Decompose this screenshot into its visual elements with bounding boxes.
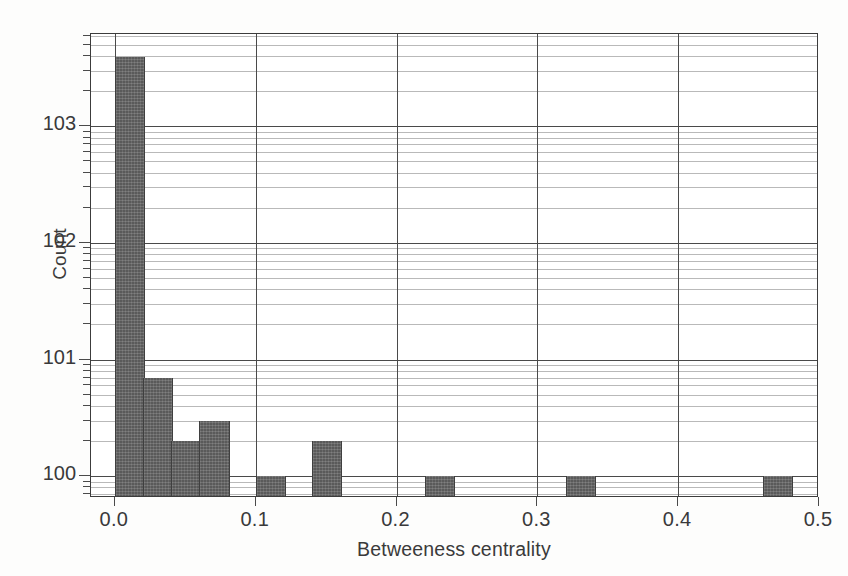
gridline-minor-y: [91, 36, 817, 37]
gridline-minor-y: [91, 187, 817, 188]
gridline-minor-y: [91, 385, 817, 386]
gridline-minor-y: [91, 365, 817, 366]
histogram-bar: [312, 441, 342, 497]
y-tick-minor: [83, 44, 90, 45]
gridline-minor-y: [91, 269, 817, 270]
gridline-minor-y: [91, 138, 817, 139]
y-tick-major: [79, 125, 90, 126]
gridline-minor-y: [91, 378, 817, 379]
y-tick-minor: [83, 131, 90, 132]
y-tick-minor: [83, 253, 90, 254]
y-tick-minor: [83, 90, 90, 91]
x-tick-label: 0.0: [74, 508, 154, 531]
x-tick: [255, 497, 256, 506]
y-tick-exponent: 1: [65, 346, 76, 368]
x-tick-label: 0.2: [356, 508, 436, 531]
gridline-minor-y: [91, 71, 817, 72]
y-tick-minor: [83, 323, 90, 324]
y-tick-minor: [83, 186, 90, 187]
histogram-bar: [199, 421, 229, 497]
gridline-minor-y: [91, 56, 817, 57]
y-tick-minor: [83, 440, 90, 441]
gridline-minor-y: [91, 152, 817, 153]
x-tick: [818, 497, 819, 506]
gridline-minor-y: [91, 406, 817, 407]
y-tick-minor: [83, 394, 90, 395]
gridline-minor-y: [91, 254, 817, 255]
y-tick-minor: [83, 151, 90, 152]
x-tick: [396, 497, 397, 506]
y-tick-minor: [83, 70, 90, 71]
gridline-minor-y: [91, 161, 817, 162]
gridline-minor-y: [91, 132, 817, 133]
y-tick-major: [79, 475, 90, 476]
gridline-x: [537, 34, 538, 496]
histogram-bar: [425, 476, 455, 497]
y-tick-minor: [83, 303, 90, 304]
x-tick-label: 0.3: [496, 508, 576, 531]
y-tick-minor: [83, 160, 90, 161]
y-tick-major: [79, 242, 90, 243]
gridline-minor-y: [91, 173, 817, 174]
y-tick-exponent: 0: [65, 462, 76, 484]
y-tick-label: 102: [0, 229, 76, 252]
plot-area: [90, 33, 818, 497]
gridline-major-y: [91, 243, 817, 244]
y-tick-minor: [83, 370, 90, 371]
x-tick-label: 0.5: [778, 508, 848, 531]
x-tick: [536, 497, 537, 506]
x-axis-title: Betweeness centrality: [90, 538, 818, 561]
y-tick-minor: [83, 172, 90, 173]
gridline-minor-y: [91, 45, 817, 46]
figure-canvas: Count 100101102103 0.00.10.20.30.40.5 Be…: [0, 0, 848, 576]
y-tick-minor: [83, 137, 90, 138]
y-tick-mantissa: 10: [43, 229, 65, 251]
y-tick-minor: [83, 260, 90, 261]
gridline-minor-y: [91, 144, 817, 145]
histogram-bar: [763, 476, 793, 497]
gridline-major-y: [91, 126, 817, 127]
x-tick-label: 0.1: [215, 508, 295, 531]
y-tick-minor: [83, 493, 90, 494]
gridline-x: [256, 34, 257, 496]
y-tick-minor: [83, 377, 90, 378]
y-tick-minor: [83, 405, 90, 406]
gridline-minor-y: [91, 91, 817, 92]
gridline-minor-y: [91, 208, 817, 209]
y-tick-minor: [83, 364, 90, 365]
y-tick-label: 100: [0, 462, 76, 485]
y-axis-title: Count: [49, 174, 71, 334]
y-tick-mantissa: 10: [43, 112, 65, 134]
x-tick: [677, 497, 678, 506]
gridline-minor-y: [91, 304, 817, 305]
y-tick-mantissa: 10: [43, 346, 65, 368]
gridline-minor-y: [91, 371, 817, 372]
y-tick-minor: [83, 207, 90, 208]
y-tick-minor: [83, 247, 90, 248]
gridline-minor-y: [91, 395, 817, 396]
gridline-minor-y: [91, 278, 817, 279]
x-tick: [114, 497, 115, 506]
y-tick-label: 101: [0, 346, 76, 369]
y-tick-exponent: 2: [65, 229, 76, 251]
y-tick-minor: [83, 55, 90, 56]
y-tick-minor: [83, 481, 90, 482]
gridline-minor-y: [91, 248, 817, 249]
histogram-bar: [115, 57, 145, 497]
histogram-bar: [171, 441, 201, 497]
gridline-major-y: [91, 360, 817, 361]
y-tick-minor: [83, 486, 90, 487]
histogram-bar: [256, 476, 286, 497]
y-tick-minor: [83, 35, 90, 36]
gridline-minor-y: [91, 324, 817, 325]
y-tick-minor: [83, 384, 90, 385]
x-tick-label: 0.4: [637, 508, 717, 531]
y-tick-exponent: 3: [65, 112, 76, 134]
y-tick-minor: [83, 143, 90, 144]
gridline-minor-y: [91, 289, 817, 290]
y-tick-minor: [83, 420, 90, 421]
histogram-bar: [143, 378, 173, 497]
gridline-x: [678, 34, 679, 496]
y-tick-minor: [83, 268, 90, 269]
y-tick-mantissa: 10: [43, 462, 65, 484]
